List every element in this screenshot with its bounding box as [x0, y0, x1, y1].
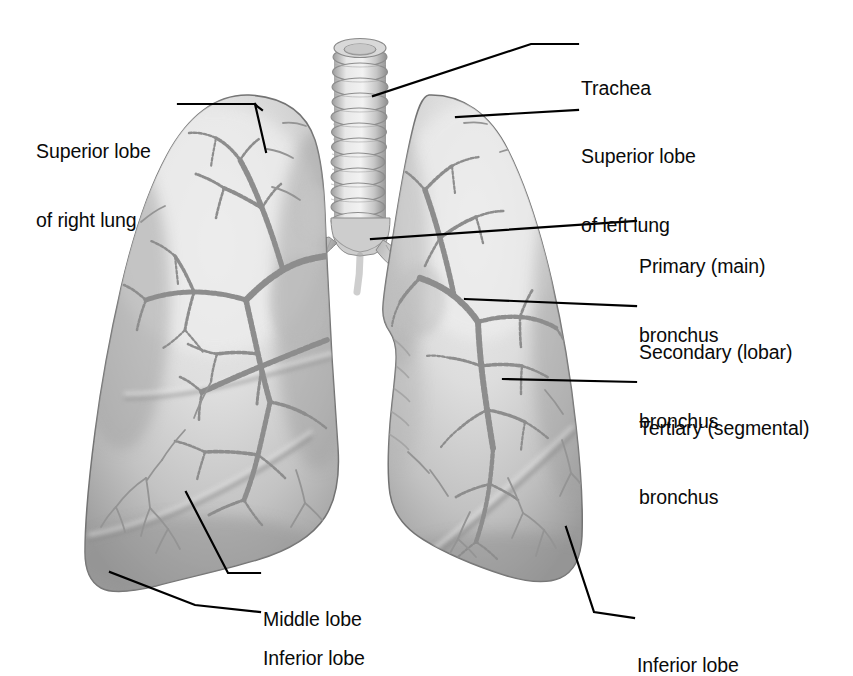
leader-trachea: [373, 44, 578, 96]
label-superior-lobe-of-right-lung-line2: of right lung: [36, 209, 151, 232]
label-superior-lobe-of-left-lung-line1: Superior lobe: [581, 145, 696, 168]
label-tertiary-segmental-bronchus-line1: Tertiary (segmental): [639, 417, 809, 440]
label-inferior-lobe-right: Inferior lobe: [263, 601, 365, 676]
label-secondary-lobar-bronchus-line1: Secondary (lobar): [639, 341, 792, 364]
label-trachea-line1: Trachea: [581, 77, 651, 100]
label-superior-lobe-of-right-lung: Superior lobe of right lung: [36, 94, 151, 278]
label-inferior-lobe-left: Inferior lobe: [637, 608, 739, 676]
label-inferior-lobe-left-line1: Inferior lobe: [637, 654, 739, 676]
label-superior-lobe-of-right-lung-line1: Superior lobe: [36, 140, 151, 163]
label-inferior-lobe-right-line1: Inferior lobe: [263, 647, 365, 670]
label-primary-main-bronchus-line1: Primary (main): [639, 255, 765, 278]
label-tertiary-segmental-bronchus-line2: bronchus: [639, 486, 809, 509]
label-tertiary-segmental-bronchus: Tertiary (segmental) bronchus: [639, 371, 809, 555]
